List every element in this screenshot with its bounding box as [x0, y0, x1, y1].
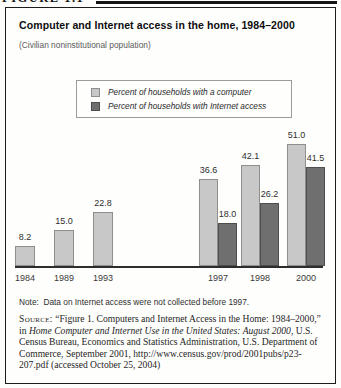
bar-value-computer-1997: 36.6 [192, 165, 226, 175]
bar-internet-1997 [218, 223, 237, 266]
bar-value-computer-1989: 15.0 [47, 216, 81, 226]
source-text-segment: Source: [19, 313, 53, 324]
figure-box: Computer and Internet access in the home… [5, 7, 336, 384]
bar-computer-1997 [199, 179, 218, 266]
figure-label: FIGURE 1.1 [2, 0, 102, 5]
x-axis-label-1998: 1998 [241, 273, 279, 283]
source-citation: Source: “Figure 1. Computers and Interne… [19, 313, 326, 371]
bar-value-internet-2000: 41.5 [299, 153, 333, 163]
bar-value-computer-1984: 8.2 [8, 232, 42, 242]
x-axis-label-1989: 1989 [45, 273, 83, 283]
bar-computer-1998 [241, 165, 260, 266]
source-text-segment: Home Computer and Internet Use in the Un… [29, 325, 291, 336]
x-axis-line [15, 266, 323, 268]
x-axis-label-1993: 1993 [84, 273, 122, 283]
note-text: Note: Data on Internet access were not c… [19, 297, 329, 307]
bar-internet-1998 [260, 203, 279, 266]
heading-rule [96, 1, 337, 4]
bar-value-internet-1997: 18.0 [211, 209, 245, 219]
bar-value-computer-1998: 42.1 [234, 151, 268, 161]
bar-value-computer-1993: 22.8 [86, 198, 120, 208]
bar-computer-1984 [15, 246, 35, 266]
bar-internet-2000 [306, 167, 325, 266]
bar-value-computer-2000: 51.0 [280, 130, 314, 140]
x-axis-label-1984: 1984 [6, 273, 44, 283]
x-axis-label-2000: 2000 [287, 273, 325, 283]
bar-computer-1993 [93, 212, 113, 266]
bar-value-internet-1998: 26.2 [253, 189, 287, 199]
x-axis-label-1997: 1997 [199, 273, 237, 283]
figure-label-text: FIGURE 1.1 [2, 0, 102, 5]
bar-computer-1989 [54, 230, 74, 266]
